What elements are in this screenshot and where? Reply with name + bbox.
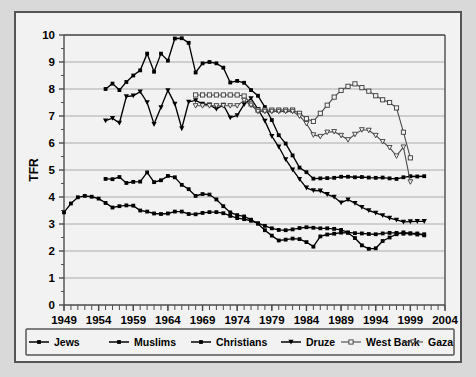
y-tick-label: 6 xyxy=(49,137,55,149)
legend-label: Gaza xyxy=(428,336,453,348)
x-tick-label: 2004 xyxy=(432,314,458,326)
x-tick-group: 1949195419591964196919741979198419891994… xyxy=(51,305,458,326)
y-tick-label: 7 xyxy=(49,110,55,122)
y-tick-label: 5 xyxy=(49,164,56,176)
x-tick-label: 1984 xyxy=(294,314,320,326)
series-christians xyxy=(104,171,426,251)
legend-label: Christians xyxy=(216,336,268,348)
y-tick-label: 8 xyxy=(49,83,56,95)
y-axis-label: TFR xyxy=(27,158,41,182)
x-tick-label: 1964 xyxy=(155,314,181,326)
chart-plot-area: 012345678910 194919541959196419691974197… xyxy=(16,13,464,365)
legend-label: Jews xyxy=(54,336,80,348)
y-tick-label: 4 xyxy=(49,191,56,203)
x-tick-label: 1999 xyxy=(398,314,424,326)
y-tick-group: 012345678910 xyxy=(42,29,64,311)
chart-figure: 012345678910 194919541959196419691974197… xyxy=(14,11,462,363)
gridlines-group xyxy=(64,35,445,278)
x-tick-label: 1979 xyxy=(259,314,285,326)
x-tick-label: 1974 xyxy=(224,314,250,326)
x-tick-label: 1949 xyxy=(51,314,77,326)
chart-legend: JewsMuslimsChristiansDruzeWest BankGaza xyxy=(26,329,454,355)
series-west-bank xyxy=(194,82,413,160)
legend-label: Muslims xyxy=(134,336,176,348)
y-tick-label: 9 xyxy=(49,56,55,68)
y-tick-label: 2 xyxy=(49,245,55,257)
y-tick-label: 10 xyxy=(42,29,55,41)
x-tick-label: 1969 xyxy=(190,314,216,326)
legend-label: Druze xyxy=(306,336,335,348)
series-group xyxy=(62,36,427,250)
y-tick-label: 3 xyxy=(49,218,55,230)
x-tick-label: 1959 xyxy=(120,314,146,326)
tfr-line-chart: 012345678910 194919541959196419691974197… xyxy=(16,13,464,365)
y-tick-label: 0 xyxy=(49,299,55,311)
x-tick-label: 1989 xyxy=(328,314,354,326)
y-tick-label: 1 xyxy=(49,272,56,284)
x-tick-label: 1954 xyxy=(86,314,112,326)
x-tick-label: 1994 xyxy=(363,314,389,326)
